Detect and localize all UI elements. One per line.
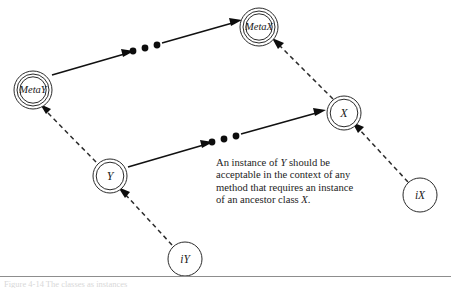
figure-caption-cutoff: Figure 4-14 The classes as instances (4, 279, 234, 288)
edge-iy-to-y (118, 187, 172, 245)
node-metax-label: MetaX (244, 21, 274, 32)
node-ix[interactable]: iX (403, 178, 437, 212)
annotation-line-3: method that requires an instance (216, 182, 366, 194)
ellipsis-dots-lower (209, 133, 240, 146)
node-metay[interactable]: MetaY (14, 71, 52, 109)
edge-x-to-metax (272, 38, 333, 99)
node-iy-label: iY (180, 253, 191, 265)
figure-canvas: MetaX MetaY X Y iX iY (0, 0, 451, 290)
footer-divider-rule (0, 276, 451, 277)
node-x-label: X (339, 106, 348, 120)
ellipsis-dots-upper (130, 42, 161, 55)
node-iy[interactable]: iY (168, 242, 202, 276)
edge-y-to-metay (40, 104, 96, 162)
diagram-svg: MetaX MetaY X Y iX iY (0, 0, 451, 290)
node-metax[interactable]: MetaX (240, 8, 278, 46)
annotation-line-4: of an ancestor class X. (216, 194, 366, 206)
annotation-line-1: An instance of Y should be (216, 157, 366, 169)
node-metay-label: MetaY (18, 84, 48, 95)
node-ix-label: iX (415, 189, 426, 201)
node-x[interactable]: X (327, 96, 361, 130)
annotation-text-block: An instance of Y should be acceptable in… (216, 157, 366, 206)
annotation-line-2: acceptable in the context of any (216, 169, 366, 181)
node-y[interactable]: Y (93, 159, 127, 193)
